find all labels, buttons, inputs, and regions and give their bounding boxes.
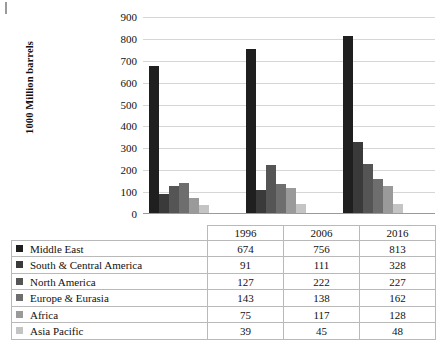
bar-2016-north-america [363,164,373,214]
x-axis-line [143,213,435,214]
bar-1996-africa [189,198,199,214]
cell-2016-europe-eurasia: 162 [360,290,436,306]
legend-swatch-icon [16,311,23,318]
legend-label: Middle East [30,243,83,255]
legend-label: Africa [30,309,58,321]
cell-1996-north-america: 127 [208,273,284,289]
cell-1996-asia-pacific: 39 [208,323,284,339]
bar-group-2016 [343,17,403,214]
y-tick-label-300: 300 [99,143,137,154]
bar-1996-south-central-america [159,194,169,214]
legend-label: South & Central America [30,260,142,272]
y-tick-label-100: 100 [99,187,137,198]
bar-2006-africa [286,188,296,214]
y-axis-title: 1000 Million barrels [24,13,35,163]
cell-2016-north-america: 227 [360,273,436,289]
cell-2006-africa: 117 [284,306,360,322]
cell-2016-middle-east: 813 [360,241,436,257]
table-corner-cell [12,226,208,241]
bar-group-1996 [149,17,209,214]
legend-swatch-icon [16,261,23,268]
y-tick-label-200: 200 [99,165,137,176]
cell-2016-asia-pacific: 48 [360,323,436,339]
table-header-row: 199620062016 [12,226,436,241]
y-tick-label-0: 0 [99,209,137,220]
cell-1996-south-central-america: 91 [208,257,284,273]
legend-item-north-america: North America [12,273,208,289]
bar-group-2006 [246,17,306,214]
legend-item-africa: Africa [12,306,208,322]
chart-page: 1000 Million barrels 0100200300400500600… [0,0,447,341]
column-header-1996: 1996 [208,226,284,241]
table-row: Europe & Eurasia143138162 [12,290,436,306]
plot-area: 0100200300400500600700800900 [143,17,435,214]
column-header-2006: 2006 [284,226,360,241]
legend-swatch-icon [16,245,23,252]
y-tick-label-500: 500 [99,100,137,111]
bar-2006-south-central-america [256,190,266,214]
y-tick-label-800: 800 [99,34,137,45]
cell-1996-europe-eurasia: 143 [208,290,284,306]
legend-item-middle-east: Middle East [12,241,208,257]
y-tick-label-600: 600 [99,78,137,89]
cell-2016-south-central-america: 328 [360,257,436,273]
legend-swatch-icon [16,327,23,334]
legend-item-asia-pacific: Asia Pacific [12,323,208,339]
legend-label: Asia Pacific [30,326,83,338]
table-row: North America127222227 [12,273,436,289]
data-table-legend: 199620062016Middle East674756813South & … [11,225,436,340]
bar-2016-south-central-america [353,142,363,214]
bar-1996-middle-east [149,66,159,214]
bar-2016-europe-eurasia [373,179,383,214]
cell-2006-middle-east: 756 [284,241,360,257]
bar-2006-europe-eurasia [276,184,286,214]
legend-label: North America [30,276,96,288]
y-tick-label-700: 700 [99,56,137,67]
cell-2006-europe-eurasia: 138 [284,290,360,306]
cell-2006-north-america: 222 [284,273,360,289]
legend-swatch-icon [16,294,23,301]
cell-2006-asia-pacific: 45 [284,323,360,339]
bar-2016-africa [383,186,393,214]
legend-swatch-icon [16,278,23,285]
table-row: Middle East674756813 [12,241,436,257]
table-row: Asia Pacific394548 [12,323,436,339]
y-tick-label-400: 400 [99,121,137,132]
cell-2006-south-central-america: 111 [284,257,360,273]
bar-1996-europe-eurasia [179,183,189,214]
cell-2016-africa: 128 [360,306,436,322]
legend-label: Europe & Eurasia [30,293,109,305]
y-tick-label-900: 900 [99,12,137,23]
bar-2006-middle-east [246,49,256,214]
cell-1996-africa: 75 [208,306,284,322]
cell-1996-middle-east: 674 [208,241,284,257]
table-row: South & Central America91111328 [12,257,436,273]
bar-2016-middle-east [343,36,353,214]
legend-item-south-central-america: South & Central America [12,257,208,273]
table-row: Africa75117128 [12,306,436,322]
bar-2006-north-america [266,165,276,214]
legend-item-europe-eurasia: Europe & Eurasia [12,290,208,306]
data-table: 199620062016Middle East674756813South & … [11,225,436,340]
bar-chart: 1000 Million barrels 0100200300400500600… [0,10,447,225]
column-header-2016: 2016 [360,226,436,241]
bar-1996-north-america [169,186,179,214]
